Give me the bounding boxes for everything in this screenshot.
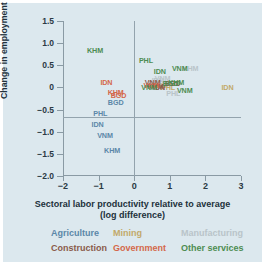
x-axis-title-line1: Sectoral labor productivity relative to … (3, 199, 262, 210)
x-tick-label: 1 (167, 181, 172, 191)
x-axis-title: Sectoral labor productivity relative to … (3, 199, 262, 221)
data-point-label: IDN (100, 77, 112, 86)
data-point-label: VNM (177, 85, 193, 94)
data-point-label: VNM (172, 63, 188, 72)
y-tick (57, 132, 63, 133)
data-point-label: IDN (91, 120, 103, 129)
data-point-label: IDN (154, 66, 166, 75)
y-axis-title: Change in employment share (% per year) (0, 0, 9, 99)
data-point-label: VNM (97, 131, 113, 140)
x-axis-title-line2: (log difference) (3, 210, 262, 221)
zero-line-vertical (134, 21, 135, 176)
y-tick (57, 87, 63, 88)
data-point-label: IDN (221, 83, 233, 92)
y-axis-line (63, 21, 64, 176)
data-point-label: KHM (87, 45, 103, 54)
zero-line-horizontal (63, 117, 241, 118)
legend-item-government[interactable]: Government (113, 243, 181, 253)
x-tick-label: 3 (238, 181, 243, 191)
legend-item-agriculture[interactable]: Agriculture (51, 228, 113, 238)
x-tick-label: −2 (58, 181, 68, 191)
legend-item-construction[interactable]: Construction (51, 243, 113, 253)
y-tick-label: 0.5 (42, 60, 54, 70)
data-point-label: KHM (104, 146, 120, 155)
legend-item-mining[interactable]: Mining (113, 228, 181, 238)
x-tick-label: −1 (93, 181, 103, 191)
y-tick (57, 65, 63, 66)
y-tick (57, 154, 63, 155)
data-point-label: VNM (141, 82, 157, 91)
y-tick-label: −1.0 (37, 127, 54, 137)
y-tick-label: −1.5 (37, 149, 54, 159)
x-axis-line (63, 175, 241, 176)
data-point-label: PHL (139, 55, 153, 64)
y-tick (57, 110, 63, 111)
y-tick-label: −0.5 (37, 105, 54, 115)
x-tick-label: 0 (132, 181, 137, 191)
legend-item-manufacturing[interactable]: Manufacturing (181, 228, 256, 238)
y-tick-label: 0 (49, 82, 54, 92)
legend: AgricultureMiningManufacturingConstructi… (51, 225, 256, 255)
figure-panel: Change in employment share (% per year) … (3, 3, 262, 262)
data-point-label: BGD (111, 90, 127, 99)
y-tick (57, 43, 63, 44)
y-tick-label: 1.0 (42, 38, 54, 48)
data-point-label: PHL (93, 109, 107, 118)
plot-area: 1.51.00.50−0.5−1.0−1.5−2.0 −2−10123 BGDP… (63, 21, 241, 176)
y-tick-label: 1.5 (42, 16, 54, 26)
legend-item-other-services[interactable]: Other services (181, 243, 256, 253)
x-tick-label: 2 (203, 181, 208, 191)
y-tick (57, 21, 63, 22)
y-tick-label: −2.0 (37, 171, 54, 181)
